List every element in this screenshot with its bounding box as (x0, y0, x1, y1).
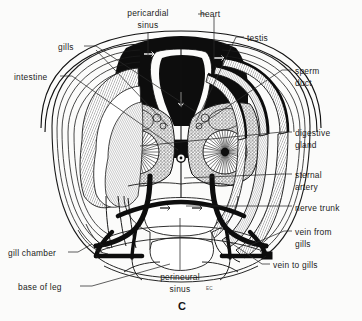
label-pericardial-sinus-line-0: pericardial (127, 8, 168, 20)
label-gill-chamber-line-0: gill chamber (8, 248, 56, 260)
label-perineural-sinus-line-1: sinus (160, 284, 200, 296)
label-vein-from-gills: vein fromgills (295, 227, 332, 250)
figure-caption-letter: C (178, 300, 186, 312)
artist-mark: EC (206, 286, 213, 291)
label-perineural-sinus-line-0: perineural (160, 272, 200, 284)
label-gill-chamber: gill chamber (8, 248, 56, 260)
label-vein-from-gills-line-1: gills (295, 239, 332, 251)
label-sperm-duct-line-1: duct (295, 78, 320, 90)
label-testis: testis (247, 33, 268, 45)
label-heart-line-0: heart (200, 9, 220, 21)
digestive-gland-right (188, 103, 260, 186)
label-gills: gills (58, 42, 74, 54)
label-base-of-leg: base of leg (18, 282, 62, 294)
label-digestive-gland-line-1: gland (295, 140, 330, 152)
label-perineural-sinus: perineuralsinus (160, 272, 200, 295)
label-vein-to-gills-line-0: vein to gills (273, 260, 318, 272)
label-sperm-duct-line-0: sperm (295, 66, 320, 78)
label-gills-line-0: gills (58, 42, 74, 54)
label-intestine-line-0: intestine (14, 72, 47, 84)
label-digestive-gland: digestivegland (295, 128, 330, 151)
label-digestive-gland-line-0: digestive (295, 128, 330, 140)
label-heart: heart (200, 9, 220, 21)
label-sternal-artery: sternalartery (295, 170, 322, 193)
label-sternal-artery-line-1: artery (295, 182, 322, 194)
label-nerve-trunk-line-0: nerve trunk (295, 203, 340, 215)
label-sternal-artery-line-0: sternal (295, 170, 322, 182)
label-testis-line-0: testis (247, 33, 268, 45)
label-nerve-trunk: nerve trunk (295, 203, 340, 215)
label-sperm-duct: spermduct (295, 66, 320, 89)
label-pericardial-sinus: pericardialsinus (127, 8, 168, 31)
label-vein-from-gills-line-0: vein from (295, 227, 332, 239)
label-intestine: intestine (14, 72, 47, 84)
label-vein-to-gills: vein to gills (273, 260, 318, 272)
label-base-of-leg-line-0: base of leg (18, 282, 62, 294)
label-pericardial-sinus-line-1: sinus (127, 20, 168, 32)
